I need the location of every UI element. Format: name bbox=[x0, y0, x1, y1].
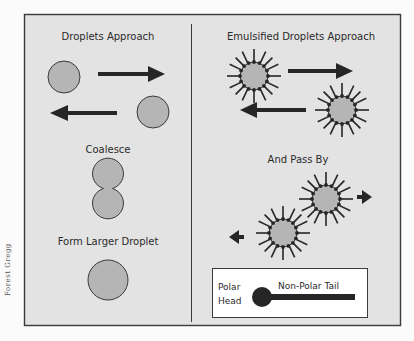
coalesce-label: Coalesce bbox=[85, 144, 130, 155]
left-title: Droplets Approach bbox=[62, 31, 155, 42]
large-droplet bbox=[88, 260, 128, 300]
image-credit: Forest Gregg bbox=[4, 243, 12, 296]
form-larger-label: Form Larger Droplet bbox=[58, 236, 159, 247]
pass-by-label: And Pass By bbox=[268, 154, 329, 165]
right-title: Emulsified Droplets Approach bbox=[227, 31, 375, 42]
diagram-canvas: Droplets Approach Coalesce Form Larger D… bbox=[0, 0, 414, 341]
legend-tail-label: Non-Polar Tail bbox=[278, 281, 339, 291]
droplet-left-1 bbox=[48, 61, 80, 93]
non-polar-tail-icon bbox=[265, 294, 355, 300]
legend-polar-label-2: Head bbox=[218, 296, 242, 306]
legend-polar-label-1: Polar bbox=[218, 282, 241, 292]
legend-box: Polar Head Non-Polar Tail bbox=[213, 269, 368, 318]
droplet-left-2 bbox=[137, 96, 169, 128]
